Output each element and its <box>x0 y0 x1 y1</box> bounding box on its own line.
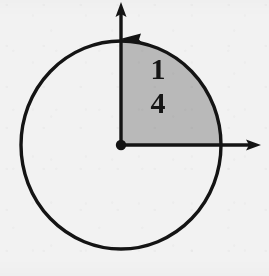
figure-canvas: 1 4 <box>0 0 269 276</box>
fraction-numerator: 1 <box>151 54 166 84</box>
origin-point <box>116 140 126 150</box>
fraction-denominator: 4 <box>151 88 166 118</box>
fraction-label-one-fourth: 1 4 <box>143 58 173 114</box>
circle-quarter-diagram <box>0 0 269 276</box>
